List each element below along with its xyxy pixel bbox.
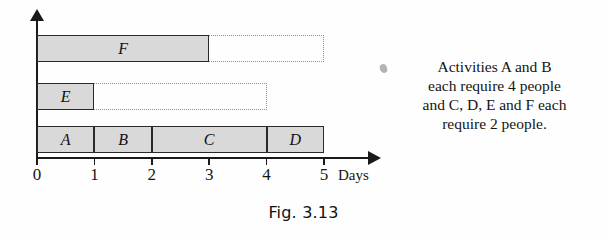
x-tick-label-4: 4 <box>252 165 282 185</box>
gantt-bar-label-B: B <box>95 132 150 148</box>
resource-note: Activities A and B each require 4 people… <box>392 57 597 133</box>
gantt-bar-label-D: D <box>268 132 323 148</box>
gantt-bar-A[interactable]: A <box>37 126 94 153</box>
x-axis-arrow-icon <box>368 151 381 165</box>
x-axis-title: Days <box>338 166 369 185</box>
x-tick-label-1: 1 <box>79 165 109 185</box>
gantt-bar-label-C: C <box>153 132 266 148</box>
gantt-bar-C[interactable]: C <box>152 126 267 153</box>
figure-caption: Fig. 3.13 <box>0 202 607 224</box>
x-tick-label-2: 2 <box>137 165 167 185</box>
gantt-chart: 012345 Days FEABCD <box>0 0 400 200</box>
resource-note-line: require 2 people. <box>392 114 597 133</box>
gantt-bar-D[interactable]: D <box>267 126 324 153</box>
x-tick-label-0: 0 <box>22 165 52 185</box>
x-tick-label-3: 3 <box>194 165 224 185</box>
gantt-bar-label-F: F <box>38 41 208 57</box>
float-extension-F <box>209 35 324 62</box>
y-axis-arrow-icon <box>30 9 44 21</box>
float-extension-E <box>94 83 266 110</box>
figure-page: 012345 Days FEABCD Activities A and B ea… <box>0 0 607 240</box>
resource-note-line: and C, D, E and F each <box>392 95 597 114</box>
x-tick-label-5: 5 <box>309 165 339 185</box>
x-axis-line <box>36 157 371 159</box>
gantt-bar-E[interactable]: E <box>37 83 94 110</box>
resource-note-line: Activities A and B <box>392 57 597 76</box>
gantt-bar-label-E: E <box>38 89 93 105</box>
resource-note-line: each require 4 people <box>392 76 597 95</box>
gantt-bar-label-A: A <box>38 132 93 148</box>
gantt-bar-B[interactable]: B <box>94 126 151 153</box>
gantt-bar-F[interactable]: F <box>37 35 209 62</box>
